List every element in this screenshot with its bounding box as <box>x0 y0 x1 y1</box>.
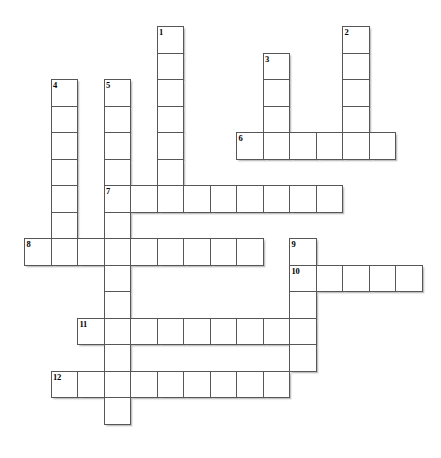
crossword-cell[interactable] <box>51 212 79 240</box>
crossword-cell[interactable] <box>263 106 291 134</box>
crossword-cell-start-2[interactable]: 2 <box>342 26 370 54</box>
clue-number-3: 3 <box>265 54 269 64</box>
crossword-cell[interactable] <box>104 318 132 346</box>
crossword-cell[interactable] <box>157 106 185 134</box>
crossword-cell[interactable] <box>263 185 291 213</box>
crossword-cell[interactable] <box>77 371 105 399</box>
crossword-cell-start-7[interactable]: 7 <box>104 185 132 213</box>
crossword-cell[interactable] <box>157 318 185 346</box>
crossword-cell[interactable] <box>369 265 397 293</box>
clue-number-12: 12 <box>53 372 61 382</box>
crossword-cell[interactable] <box>130 371 158 399</box>
crossword-cell[interactable] <box>104 397 132 425</box>
crossword-cell[interactable] <box>210 185 238 213</box>
crossword-cell[interactable] <box>130 185 158 213</box>
crossword-cell[interactable] <box>263 132 291 160</box>
crossword-cell[interactable] <box>104 132 132 160</box>
clue-number-2: 2 <box>345 27 349 37</box>
crossword-cell[interactable] <box>342 265 370 293</box>
crossword-cell[interactable] <box>183 318 211 346</box>
crossword-cell[interactable] <box>369 132 397 160</box>
clue-number-8: 8 <box>27 239 31 249</box>
crossword-cell[interactable] <box>51 238 79 266</box>
crossword-cell[interactable] <box>342 53 370 81</box>
crossword-cell[interactable] <box>316 132 344 160</box>
crossword-cell[interactable] <box>210 318 238 346</box>
crossword-cell[interactable] <box>236 185 264 213</box>
crossword-cell[interactable] <box>51 159 79 187</box>
crossword-cell[interactable] <box>210 238 238 266</box>
crossword-cell[interactable] <box>236 371 264 399</box>
crossword-cell[interactable] <box>263 371 291 399</box>
crossword-cell-start-11[interactable]: 11 <box>77 318 105 346</box>
crossword-cell[interactable] <box>130 318 158 346</box>
crossword-cell[interactable] <box>210 371 238 399</box>
crossword-cell[interactable] <box>157 79 185 107</box>
clue-number-1: 1 <box>159 27 163 37</box>
crossword-cell[interactable] <box>342 106 370 134</box>
crossword-cell[interactable] <box>395 265 423 293</box>
crossword-cell[interactable] <box>289 185 317 213</box>
crossword-cell[interactable] <box>289 344 317 372</box>
crossword-cell-start-9[interactable]: 9 <box>289 238 317 266</box>
crossword-cell[interactable] <box>104 371 132 399</box>
crossword-cell[interactable] <box>157 159 185 187</box>
crossword-cell[interactable] <box>104 106 132 134</box>
crossword-cell[interactable] <box>263 318 291 346</box>
crossword-cell[interactable] <box>236 238 264 266</box>
crossword-cell[interactable] <box>104 344 132 372</box>
crossword-grid[interactable]: 123456789101112 <box>0 0 441 458</box>
crossword-cell-start-4[interactable]: 4 <box>51 79 79 107</box>
crossword-cell[interactable] <box>104 238 132 266</box>
clue-number-11: 11 <box>80 319 88 329</box>
crossword-cell[interactable] <box>157 53 185 81</box>
crossword-cell[interactable] <box>104 159 132 187</box>
crossword-cell-start-3[interactable]: 3 <box>263 53 291 81</box>
crossword-cell[interactable] <box>183 371 211 399</box>
crossword-cell[interactable] <box>289 291 317 319</box>
crossword-cell[interactable] <box>342 79 370 107</box>
crossword-cell[interactable] <box>316 265 344 293</box>
crossword-cell[interactable] <box>104 212 132 240</box>
crossword-cell[interactable] <box>289 318 317 346</box>
crossword-cell[interactable] <box>130 238 158 266</box>
crossword-cell[interactable] <box>157 238 185 266</box>
crossword-cell-start-12[interactable]: 12 <box>51 371 79 399</box>
clue-number-10: 10 <box>292 266 300 276</box>
crossword-cell-start-8[interactable]: 8 <box>24 238 52 266</box>
clue-number-7: 7 <box>106 186 110 196</box>
crossword-cell[interactable] <box>183 185 211 213</box>
crossword-cell[interactable] <box>77 238 105 266</box>
crossword-cell[interactable] <box>51 185 79 213</box>
clue-number-4: 4 <box>53 80 57 90</box>
crossword-cell[interactable] <box>236 318 264 346</box>
crossword-cell[interactable] <box>183 238 211 266</box>
crossword-cell[interactable] <box>104 291 132 319</box>
crossword-cell-start-5[interactable]: 5 <box>104 79 132 107</box>
clue-number-9: 9 <box>292 239 296 249</box>
crossword-cell[interactable] <box>104 265 132 293</box>
crossword-cell[interactable] <box>51 132 79 160</box>
crossword-cell[interactable] <box>263 79 291 107</box>
crossword-cell[interactable] <box>316 185 344 213</box>
crossword-cell[interactable] <box>157 132 185 160</box>
crossword-cell[interactable] <box>157 371 185 399</box>
crossword-cell[interactable] <box>289 132 317 160</box>
crossword-cell[interactable] <box>157 185 185 213</box>
crossword-cell[interactable] <box>51 106 79 134</box>
clue-number-5: 5 <box>106 80 110 90</box>
crossword-cell[interactable] <box>342 132 370 160</box>
crossword-cell-start-1[interactable]: 1 <box>157 26 185 54</box>
clue-number-6: 6 <box>239 133 243 143</box>
crossword-cell-start-6[interactable]: 6 <box>236 132 264 160</box>
crossword-cell-start-10[interactable]: 10 <box>289 265 317 293</box>
